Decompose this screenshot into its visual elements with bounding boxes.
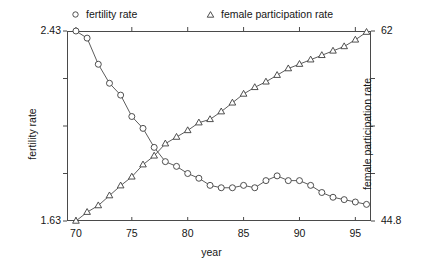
y-tick-label-1-63: 1.63 [17, 214, 61, 226]
y2-tick-label-62: 62 [381, 24, 423, 36]
x-tick-label-95: 95 [340, 227, 370, 239]
legend-entry-fertility-rate: fertility rate [71, 8, 137, 20]
x-tick-label-80: 80 [173, 227, 203, 239]
legend-entry-female-participation-rate: female participation rate [206, 8, 333, 20]
chart-container: fertility rate female participation rate… [0, 0, 423, 268]
y-axis-title: fertility rate [26, 108, 38, 159]
legend-label-fertility-rate: fertility rate [86, 8, 137, 20]
x-tick-label-90: 90 [284, 227, 314, 239]
y2-tick-label-44-8: 44.8 [381, 214, 423, 226]
y2-axis-title: female participation rate [361, 78, 373, 190]
x-tick-label-70: 70 [61, 227, 91, 239]
triangle-marker-icon [206, 10, 215, 19]
chart-legend: fertility rate female participation rate [0, 8, 423, 24]
circle-marker-icon [71, 10, 80, 19]
plot-frame [67, 31, 371, 221]
y-tick-label-2-43: 2.43 [17, 24, 61, 36]
x-tick-label-85: 85 [229, 227, 259, 239]
x-axis-title: year [0, 246, 423, 258]
legend-label-female-participation-rate: female participation rate [221, 8, 333, 20]
x-tick-label-75: 75 [117, 227, 147, 239]
